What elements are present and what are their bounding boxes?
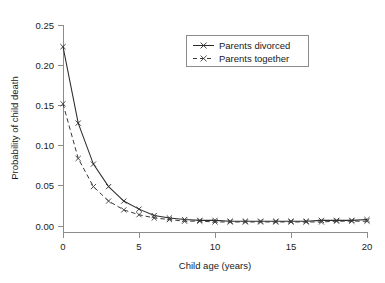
data-point-marker (106, 184, 111, 189)
y-tick-label-1: 0.05 (36, 180, 55, 191)
x-axis-title: Child age (years) (179, 260, 251, 271)
y-tick-label-5: 0.25 (36, 20, 55, 31)
x-tick-label-4: 20 (362, 241, 373, 252)
data-series-layer (60, 44, 369, 224)
series-line (63, 47, 367, 221)
x-tick-label-2: 10 (210, 241, 221, 252)
legend-label-parents-together: Parents together (219, 53, 289, 64)
y-axis-title: Probability of child death (9, 76, 20, 180)
y-tick-label-0: 0.00 (36, 221, 55, 232)
data-point-marker (121, 198, 126, 203)
series-line (63, 104, 367, 222)
data-point-marker (91, 184, 96, 189)
y-tick-label-3: 0.15 (36, 100, 55, 111)
y-axis-ticks (58, 25, 63, 226)
series-parents-divorced (60, 44, 369, 224)
x-tick-label-3: 15 (286, 241, 297, 252)
legend-label-parents-divorced: Parents divorced (219, 40, 290, 51)
data-point-marker (121, 207, 126, 212)
y-tick-label-4: 0.20 (36, 60, 55, 71)
chart-svg: 0.00 0.05 0.10 0.15 0.20 0.25 0 5 10 15 … (0, 0, 385, 283)
x-axis-ticks (63, 232, 367, 238)
x-tick-label-0: 0 (60, 241, 65, 252)
data-point-marker (91, 161, 96, 166)
data-point-marker (106, 198, 111, 203)
y-tick-label-2: 0.10 (36, 140, 55, 151)
x-axis-tick-labels: 0 5 10 15 20 (60, 241, 372, 252)
y-axis-tick-labels: 0.00 0.05 0.10 0.15 0.20 0.25 (36, 20, 55, 232)
data-point-marker (136, 207, 141, 212)
chart-legend: Parents divorced Parents together (186, 35, 308, 66)
series-parents-together (60, 101, 369, 224)
chart-figure: 0.00 0.05 0.10 0.15 0.20 0.25 0 5 10 15 … (0, 0, 385, 283)
x-tick-label-1: 5 (136, 241, 141, 252)
